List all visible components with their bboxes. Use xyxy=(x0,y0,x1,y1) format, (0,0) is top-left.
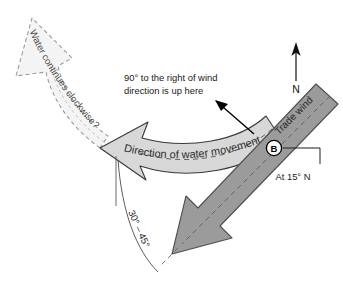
ghost-arrow-label: Water continues clockwise? xyxy=(28,28,102,130)
ekman-transport-diagram: Water continues clockwise? Direction of … xyxy=(0,0,343,303)
angle-label-group: 30° – 45° xyxy=(126,208,152,249)
trade-wind-axis-extension xyxy=(160,248,178,266)
ekman-note-line-1: 90° to the right of wind xyxy=(124,72,217,83)
angle-label: 30° – 45° xyxy=(126,208,152,249)
ekman-note-pointer xyxy=(215,100,254,134)
compass-north-label: N xyxy=(292,83,300,95)
point-b-label: B xyxy=(271,143,278,154)
point-b-marker: B xyxy=(266,140,281,155)
trade-wind-arrow xyxy=(160,84,338,266)
latitude-label: At 15° N xyxy=(275,171,310,182)
diagram-canvas: Water continues clockwise? Direction of … xyxy=(0,0,343,303)
ekman-note-line-2: direction is up here xyxy=(124,85,203,96)
compass-north: N xyxy=(291,42,300,95)
